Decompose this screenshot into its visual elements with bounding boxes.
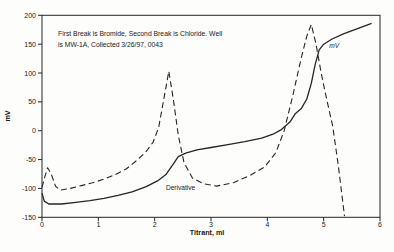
y-tick-label: 100 [24,70,36,77]
y-tick-label: 150 [24,41,36,48]
titration-chart: 200150100500-50-100-150 0123456 mVDeriva… [0,0,394,252]
series-curves [42,23,372,216]
y-tick-label: 50 [28,98,36,105]
x-tick-label: 6 [378,221,382,228]
y-tick-label: 0 [32,127,36,134]
x-axis-title: Titrant, ml [190,228,225,237]
y-tick-label: 200 [24,12,36,19]
series-labels: mVDerivative [166,42,340,190]
y-tick-label: -100 [22,185,36,192]
x-tick-label: 2 [153,221,157,228]
annotation-line-2: is MW-1A, Collected 3/26/97, 0043 [58,41,163,48]
y-axis-ticks: 200150100500-50-100-150 [22,12,42,221]
series-label-derivative: Derivative [166,184,196,191]
x-tick-label: 4 [265,221,269,228]
y-tick-label: -50 [26,156,36,163]
series-label-mv: mV [329,42,339,49]
y-tick-label: -150 [22,214,36,221]
x-tick-label: 0 [40,221,44,228]
annotation-line-1: First Break is Bromide, Second Break is … [58,30,223,37]
y-axis-title: mV [3,110,12,121]
curve-mv [42,23,372,204]
chart-svg: 200150100500-50-100-150 0123456 mVDeriva… [0,0,394,252]
x-axis-ticks: 0123456 [40,217,382,228]
x-tick-label: 5 [322,221,326,228]
x-tick-label: 3 [209,221,213,228]
x-tick-label: 1 [96,221,100,228]
